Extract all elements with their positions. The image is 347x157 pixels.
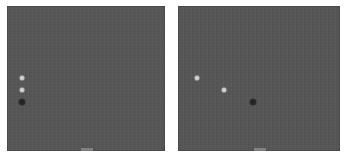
light-dot-1 bbox=[195, 76, 200, 81]
light-dot-2 bbox=[20, 88, 25, 93]
dark-dot bbox=[250, 99, 257, 106]
right-panel-caption bbox=[254, 148, 266, 151]
dark-dot bbox=[19, 99, 26, 106]
left-panel-caption bbox=[81, 148, 93, 151]
light-dot-1 bbox=[20, 76, 25, 81]
light-dot-2 bbox=[222, 88, 227, 93]
left-image-panel bbox=[7, 6, 165, 151]
right-image-panel bbox=[178, 6, 340, 151]
